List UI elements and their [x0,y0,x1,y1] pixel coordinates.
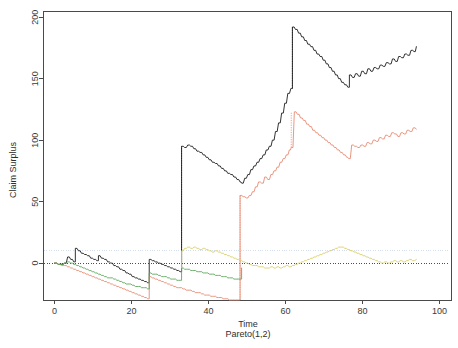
series-path-2 [55,112,417,300]
plot-frame [43,11,451,300]
y-axis-title: Claim Surplus [8,141,18,198]
x-tick-label: 80 [357,306,367,316]
series-path-3 [55,262,242,289]
claim-surplus-plot: 020406080100050100150200 Claim Surplus T… [0,0,458,348]
x-axis-title: Time [238,319,258,329]
plot-box [43,11,451,300]
y-tick-label: 150 [30,71,40,86]
axis-titles: Claim Surplus Time Pareto(1,2) [8,141,271,339]
axis-tick-labels: 020406080100050100150200 [30,10,447,316]
y-tick-label: 200 [30,10,40,25]
x-tick-label: 40 [204,306,214,316]
data-series-group [55,27,417,300]
axis-ticks [39,17,439,304]
chart-container: 020406080100050100150200 Claim Surplus T… [0,0,458,348]
x-tick-label: 20 [127,306,137,316]
x-tick-label: 60 [280,306,290,316]
x-tick-label: 0 [52,306,57,316]
x-axis-subtitle: Pareto(1,2) [225,329,270,339]
reference-lines [44,251,450,263]
y-tick-label: 0 [30,261,40,266]
series-path-1 [55,27,417,283]
y-tick-label: 50 [30,197,40,207]
x-tick-label: 100 [432,306,447,316]
series-path-4 [182,247,417,268]
y-tick-label: 100 [30,133,40,148]
